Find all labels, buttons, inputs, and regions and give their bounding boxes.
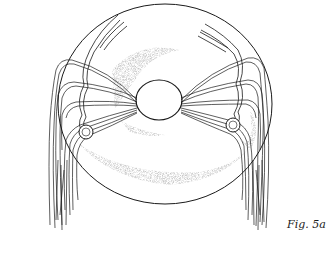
left-knot	[79, 125, 93, 139]
figure-caption: Fig. 5a	[287, 218, 326, 231]
disc-cord-illustration	[0, 0, 327, 255]
right-knot	[226, 118, 240, 132]
center-hole	[136, 80, 182, 120]
